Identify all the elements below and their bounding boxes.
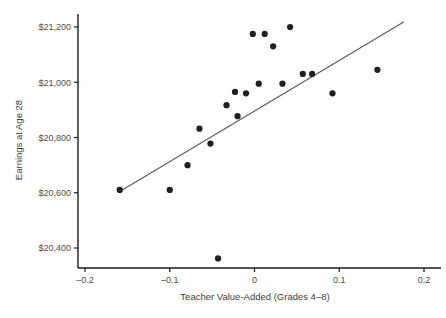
data-point <box>270 43 276 49</box>
data-point <box>207 140 213 146</box>
data-point <box>262 31 268 37</box>
scatter-chart: $20,400$20,600$20,800$21,000$21,200 –0.2… <box>0 0 446 318</box>
data-point <box>117 187 123 193</box>
y-axis-tick-label: $21,200 <box>38 22 71 32</box>
data-point <box>329 90 335 96</box>
data-point <box>287 24 293 30</box>
data-point <box>300 71 306 77</box>
data-point <box>243 90 249 96</box>
chart-background <box>0 0 446 318</box>
data-point <box>215 255 221 261</box>
data-point <box>232 89 238 95</box>
data-point <box>234 113 240 119</box>
y-axis-tick-label: $20,400 <box>38 243 71 253</box>
data-point <box>309 71 315 77</box>
y-axis-tick-label: $20,800 <box>38 133 71 143</box>
x-axis-tick-label: 0.2 <box>418 275 431 285</box>
x-axis-tick-label: 0 <box>252 275 257 285</box>
data-point <box>223 102 229 108</box>
y-axis-tick-label: $20,600 <box>38 188 71 198</box>
x-axis-tick-label: –0.2 <box>76 275 94 285</box>
data-point <box>184 162 190 168</box>
x-axis-title: Teacher Value-Added (Grades 4–8) <box>180 291 329 302</box>
data-point <box>167 187 173 193</box>
data-point <box>374 67 380 73</box>
chart-canvas: $20,400$20,600$20,800$21,000$21,200 –0.2… <box>0 0 446 318</box>
y-axis-tick-label: $21,000 <box>38 78 71 88</box>
x-axis-tick-label: –0.1 <box>161 275 179 285</box>
y-axis-title: Earnings at Age 28 <box>13 100 24 180</box>
data-point <box>279 81 285 87</box>
data-point <box>250 31 256 37</box>
x-axis-tick-label: 0.1 <box>333 275 346 285</box>
data-point <box>196 126 202 132</box>
data-point <box>256 81 262 87</box>
